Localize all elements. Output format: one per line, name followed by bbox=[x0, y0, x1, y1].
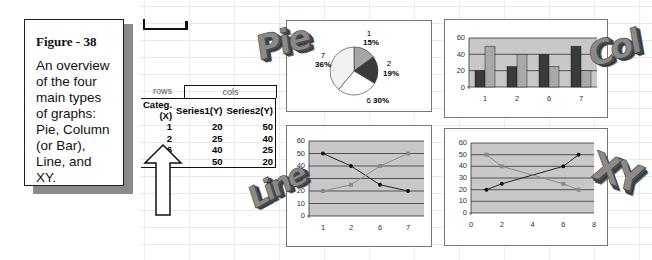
svg-text:10: 10 bbox=[297, 199, 305, 208]
svg-text:6: 6 bbox=[378, 223, 382, 232]
pie-label-cat-7: 7 bbox=[321, 51, 326, 60]
table-header-row: Categ.(X) Series1(Y) Series2(Y) bbox=[141, 99, 276, 122]
svg-text:0: 0 bbox=[461, 83, 465, 92]
bracket-marker bbox=[143, 19, 185, 30]
svg-text:50: 50 bbox=[459, 150, 467, 159]
column-chart: 6040200 1267 bbox=[445, 20, 607, 117]
cols-label: cols bbox=[184, 85, 277, 98]
svg-text:60: 60 bbox=[457, 33, 465, 42]
svg-text:6: 6 bbox=[561, 220, 565, 229]
svg-text:60: 60 bbox=[459, 138, 467, 147]
svg-text:1: 1 bbox=[321, 223, 325, 232]
figure-description: An overview of the four main types of gr… bbox=[36, 58, 115, 186]
svg-text:10: 10 bbox=[459, 196, 467, 205]
svg-text:2: 2 bbox=[515, 94, 519, 103]
bar-s1-cat6 bbox=[539, 54, 549, 87]
table-cell: 20 bbox=[174, 121, 224, 133]
pie-label-pct-2: 19% bbox=[383, 69, 399, 78]
svg-text:40: 40 bbox=[457, 50, 465, 59]
svg-text:20: 20 bbox=[457, 66, 465, 75]
svg-text:7: 7 bbox=[579, 94, 583, 103]
pie-label-pct-6: 30% bbox=[373, 96, 389, 105]
figure-caption-box: Figure - 38 An overview of the four main… bbox=[24, 19, 124, 186]
svg-text:40: 40 bbox=[459, 161, 467, 170]
bar-s2-cat6 bbox=[549, 67, 559, 87]
pie-label-cat-2: 2 bbox=[387, 59, 392, 68]
svg-text:0: 0 bbox=[469, 220, 473, 229]
svg-text:4: 4 bbox=[530, 220, 534, 229]
bar-s2-cat2 bbox=[517, 54, 527, 87]
svg-text:60: 60 bbox=[297, 136, 305, 145]
table-cell: 1 bbox=[141, 121, 174, 133]
svg-text:0: 0 bbox=[463, 208, 467, 217]
svg-text:1: 1 bbox=[483, 94, 487, 103]
xy-chart-panel: 6050403020100 02468 bbox=[444, 128, 608, 246]
svg-text:7: 7 bbox=[406, 223, 410, 232]
bar-s2-cat7 bbox=[581, 71, 591, 87]
table-row: 1 20 50 bbox=[141, 121, 276, 133]
rows-label: rows bbox=[141, 85, 184, 98]
svg-text:20: 20 bbox=[459, 185, 467, 194]
bar-s1-cat1 bbox=[475, 71, 485, 87]
figure-title: Figure - 38 bbox=[36, 34, 115, 50]
bar-s1-cat7 bbox=[571, 46, 581, 87]
header-cell: Categ.(X) bbox=[141, 99, 174, 122]
svg-text:6: 6 bbox=[547, 94, 551, 103]
table-cell: 50 bbox=[225, 121, 276, 133]
svg-text:2: 2 bbox=[349, 223, 353, 232]
up-arrow-icon bbox=[143, 143, 183, 223]
header-cell: Series2(Y) bbox=[225, 99, 276, 122]
svg-text:8: 8 bbox=[592, 220, 596, 229]
table-cell: 25 bbox=[225, 144, 276, 156]
table-cell: 40 bbox=[225, 133, 276, 145]
line-chart: 6050403020100 1267 bbox=[287, 126, 431, 246]
column-chart-panel: 6040200 1267 bbox=[444, 19, 608, 118]
svg-text:30: 30 bbox=[459, 173, 467, 182]
xy-scatter-chart: 6050403020100 02468 bbox=[445, 129, 607, 245]
pie-label-pct-7: 36% bbox=[315, 60, 331, 69]
svg-text:0: 0 bbox=[301, 211, 305, 220]
pie-label-cat-6: 6 bbox=[367, 96, 372, 105]
table-cell: 20 bbox=[225, 156, 276, 168]
bar-s1-cat2 bbox=[507, 67, 517, 87]
svg-text:2: 2 bbox=[500, 220, 504, 229]
header-cell: Series1(Y) bbox=[174, 99, 224, 122]
bar-s2-cat1 bbox=[485, 46, 495, 87]
pie-label-cat-1: 1 bbox=[367, 29, 372, 38]
pie-label-pct-1: 15% bbox=[363, 38, 379, 47]
